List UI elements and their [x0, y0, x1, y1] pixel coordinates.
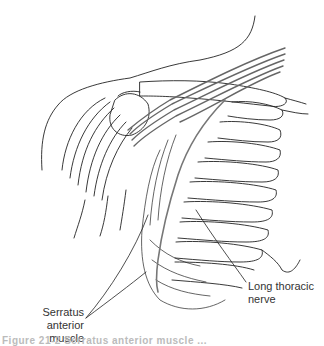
figure-caption: Figure 21-2 Serratus anterior muscle ...: [2, 335, 207, 346]
brachial-plexus: [128, 48, 285, 146]
nerve-label-line2: nerve: [248, 293, 314, 306]
serratus-label-line1: Serratus: [26, 306, 84, 319]
serratus-leader-line-2: [86, 272, 146, 318]
nerve-label-line1: Long thoracic: [248, 280, 314, 293]
arm-muscle-lines: [62, 98, 132, 238]
serratus-leader-line-1: [86, 215, 148, 318]
ribs: [172, 101, 308, 288]
long-thoracic-nerve-label: Long thoracic nerve: [248, 280, 314, 306]
